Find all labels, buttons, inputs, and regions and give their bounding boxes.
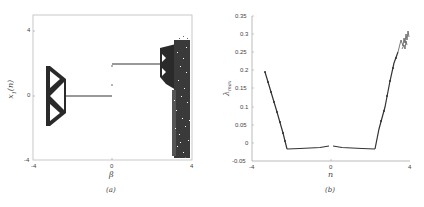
x-axis-label: n [328,170,333,179]
y-tick-0-1: 0.1 [240,104,248,110]
x-tick-neg4: -4 [249,164,254,170]
lyapunov-plot [0,0,424,207]
y-tick-0-2: 0.2 [240,67,248,73]
y-axis-label: λmax [222,80,233,96]
y-axis-label-main: λ [222,91,231,96]
y-tick-0-25: 0.25 [235,49,247,55]
y-tick-0-15: 0.15 [235,85,247,91]
x-tick-4: 4 [408,164,411,170]
y-tick-0: 0 [245,140,248,146]
y-tick-0-35: 0.35 [235,13,247,19]
y-axis-label-sub: max [226,80,232,91]
y-tick-0-05: 0.05 [235,122,247,128]
caption-b: (b) [325,186,335,194]
y-tick-neg0-05: -0.05 [232,158,246,164]
y-tick-0-3: 0.3 [240,31,248,37]
panel-b: 0.35 0.3 0.25 0.2 0.15 0.1 0.05 0 -0.05 … [0,0,424,207]
